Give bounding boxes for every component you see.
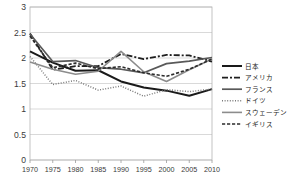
- legend-label-2: フランス: [245, 86, 273, 94]
- y-axis-tick-label: 0.5: [14, 130, 26, 140]
- x-axis-tick-label: 1970: [22, 165, 38, 174]
- x-axis-tick-labels: 197019751980198519901995200020052010: [22, 165, 220, 174]
- y-axis-tick-label: 1.5: [14, 79, 26, 89]
- x-axis-tick-label: 2000: [159, 165, 175, 174]
- y-axis-tick-label: 2.5: [14, 28, 26, 38]
- legend-label-4: スウェーデン: [245, 108, 287, 117]
- y-axis-tick-labels: 00.511.522.53: [14, 2, 26, 165]
- y-axis-tick-label: 0: [21, 155, 26, 165]
- y-axis-tick-label: 2: [21, 53, 26, 63]
- x-axis-tick-label: 1985: [90, 165, 106, 174]
- chart-canvas: 00.511.522.53 19701975198019851990199520…: [0, 0, 292, 195]
- line-chart: 00.511.522.53 19701975198019851990199520…: [0, 0, 292, 195]
- x-axis-tick-label: 1975: [45, 165, 61, 174]
- legend-label-1: アメリカ: [245, 74, 273, 82]
- y-axis-tick-label: 3: [21, 2, 26, 12]
- legend-label-0: 日本: [245, 62, 259, 71]
- legend-label-3: ドイツ: [245, 97, 266, 105]
- x-axis-tick-label: 1995: [136, 165, 152, 174]
- x-axis-tick-label: 2010: [204, 165, 220, 174]
- x-axis-tick-label: 2005: [181, 165, 197, 174]
- y-axis-tick-label: 1: [21, 104, 26, 114]
- legend-label-5: イギリス: [245, 121, 273, 129]
- chart-legend: 日本アメリカフランスドイツスウェーデンイギリス: [222, 62, 287, 129]
- x-axis-tick-label: 1990: [113, 165, 129, 174]
- x-axis-tick-label: 1980: [68, 165, 84, 174]
- x-axis-ticks: [30, 160, 212, 163]
